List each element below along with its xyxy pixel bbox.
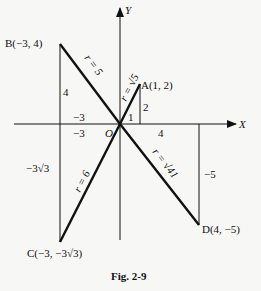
coordinate-figure: X Y O A(1, 2) B(−3, 4) C(−3, −3√3) D(4, … bbox=[0, 0, 261, 291]
point-label-c: C(−3, −3√3) bbox=[27, 247, 82, 260]
dy-label-d: −5 bbox=[204, 168, 216, 180]
dy-label-a: 2 bbox=[143, 101, 149, 113]
radius-line-c bbox=[60, 124, 120, 242]
radius-line-d bbox=[120, 124, 199, 225]
point-label-d: D(4, −5) bbox=[202, 223, 240, 236]
radius-label-d: r = √41 bbox=[150, 146, 181, 180]
y-axis-label: Y bbox=[125, 4, 133, 16]
figure-caption: Fig. 2-9 bbox=[111, 270, 147, 282]
x-axis-label: X bbox=[238, 118, 247, 130]
radius-label-c: r = 6 bbox=[71, 168, 92, 194]
dy-label-c: −3√3 bbox=[26, 162, 50, 174]
dx-label-a: 1 bbox=[128, 111, 134, 123]
dx-label-b: −3 bbox=[73, 111, 85, 123]
dx-label-d: 4 bbox=[158, 127, 164, 139]
radius-label-b: r = 5 bbox=[82, 52, 106, 78]
point-label-b: B(−3, 4) bbox=[5, 37, 43, 50]
point-label-a: A(1, 2) bbox=[141, 79, 173, 92]
dy-label-b: 4 bbox=[63, 86, 69, 98]
dx-label-c: −3 bbox=[73, 127, 85, 139]
origin-label: O bbox=[105, 127, 113, 139]
